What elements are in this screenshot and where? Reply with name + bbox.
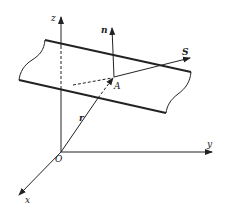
direction-s-label: S [182,47,189,57]
plate-top-edge [45,40,191,72]
normal-n-label: n [101,25,108,35]
coordinate-diagram: z y x O A n S r [0,0,229,216]
origin-label: O [55,154,63,164]
direction-vector-s [114,58,190,77]
plate [19,40,191,113]
y-axis-label: y [206,139,213,149]
normal-vector-n [112,28,114,77]
x-axis-label: x [25,195,30,205]
diagram-canvas: z y x O A n S r [0,0,229,216]
plate-bottom-edge [19,80,166,113]
dashed-projection-line [73,78,112,85]
position-vector-r [61,78,113,152]
plate-left-break [19,40,45,80]
z-axis-label: z [50,13,56,23]
point-a-label: A [113,81,121,91]
plate-right-break [166,72,191,113]
